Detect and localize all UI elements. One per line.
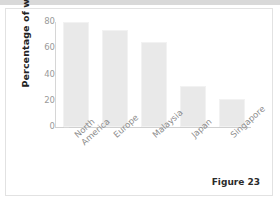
y-tick-label: 80 [29, 17, 55, 26]
y-tick: 80 [20, 22, 55, 23]
bar [102, 30, 128, 127]
y-tick: 20 [20, 101, 55, 102]
bar-chart: Percentage of women 020406080 North Amer… [6, 9, 274, 197]
y-tick-label: 0 [29, 122, 55, 131]
bar [63, 22, 89, 127]
bar [141, 42, 167, 127]
y-tick-mark [64, 127, 69, 128]
y-tick-label: 60 [29, 43, 55, 52]
bars-group [56, 22, 252, 127]
figure-panel: Percentage of women 020406080 North Amer… [5, 8, 273, 196]
top-grey-strip [0, 0, 280, 5]
y-tick: 40 [20, 75, 55, 76]
y-tick-label: 20 [29, 96, 55, 105]
y-tick-label: 40 [29, 70, 55, 79]
figure-caption: Figure 23 [212, 177, 260, 187]
y-tick: 60 [20, 48, 55, 49]
y-tick: 0 [20, 127, 55, 128]
